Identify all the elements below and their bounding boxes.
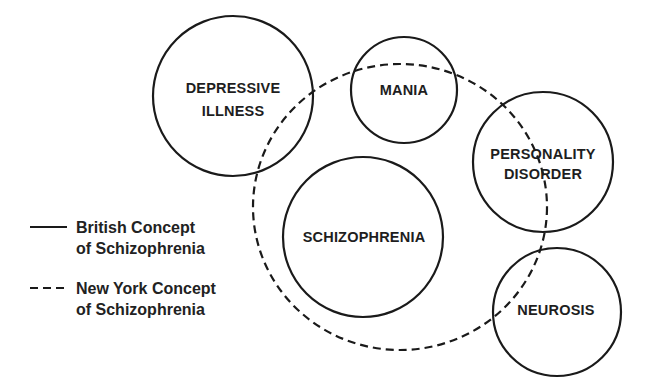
legend-british-line1: British Concept <box>76 219 196 236</box>
legend-new-york-line1: New York Concept <box>76 280 217 297</box>
label-depressive: DEPRESSIVE <box>186 80 281 96</box>
legend-item-british: British Concept of Schizophrenia <box>30 219 205 257</box>
legend: British Concept of Schizophrenia New Yor… <box>30 219 217 318</box>
label-disorder: DISORDER <box>504 166 582 182</box>
diagram-canvas: DEPRESSIVE ILLNESS MANIA PERSONALITY DIS… <box>0 0 645 379</box>
circle-mania: MANIA <box>351 37 457 143</box>
label-personality: PERSONALITY <box>490 146 595 162</box>
label-schizophrenia: SCHIZOPHRENIA <box>303 229 426 245</box>
circle-neurosis: NEUROSIS <box>493 248 621 376</box>
label-neurosis: NEUROSIS <box>517 302 594 318</box>
circle-schizophrenia: SCHIZOPHRENIA <box>283 157 443 317</box>
legend-british-line2: of Schizophrenia <box>76 240 205 257</box>
label-mania: MANIA <box>380 82 429 98</box>
circle-depressive-illness: DEPRESSIVE ILLNESS <box>153 16 313 176</box>
legend-item-new-york: New York Concept of Schizophrenia <box>30 280 217 318</box>
legend-new-york-line2: of Schizophrenia <box>76 301 205 318</box>
label-illness: ILLNESS <box>202 103 265 119</box>
circle-personality-disorder: PERSONALITY DISORDER <box>473 92 613 232</box>
